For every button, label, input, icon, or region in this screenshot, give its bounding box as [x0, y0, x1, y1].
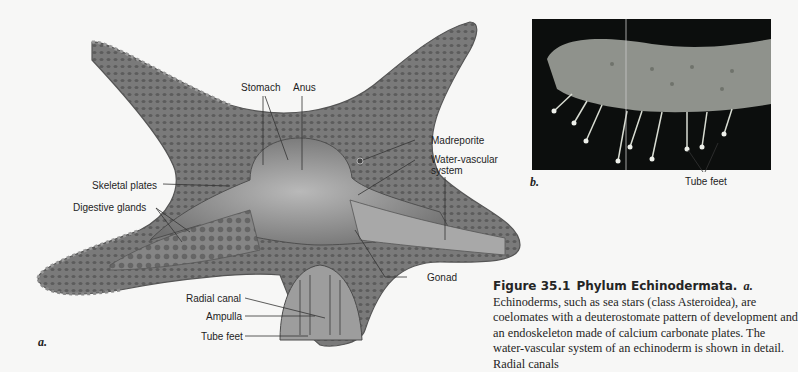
- panel-letter-a: a.: [38, 335, 47, 350]
- caption-figure-number: Figure 35.1: [493, 279, 570, 293]
- caption-text: Echinoderms, such as sea stars (class As…: [493, 295, 798, 371]
- label-tube-feet-a: Tube feet: [201, 331, 243, 342]
- label-water-vascular: Water-vascular: [431, 154, 498, 165]
- label-gonad: Gonad: [427, 272, 457, 283]
- tube-feet-photo: [532, 19, 771, 170]
- label-madreporite: Madreporite: [431, 135, 484, 146]
- panel-letter-b: b.: [530, 175, 539, 190]
- label-digestive-glands: Digestive glands: [73, 202, 146, 213]
- figure-caption: Figure 35.1 Phylum Echinodermata. a. Ech…: [493, 279, 798, 372]
- label-tube-feet-b: Tube feet: [685, 176, 727, 187]
- madreporite: [357, 158, 363, 164]
- label-anus: Anus: [293, 82, 316, 93]
- caption-panel-ref: a.: [744, 279, 753, 293]
- label-ampulla: Ampulla: [206, 311, 242, 322]
- label-skeletal-plates: Skeletal plates: [92, 180, 157, 191]
- label-radial-canal: Radial canal: [186, 293, 241, 304]
- label-water-vascular-2: system: [431, 165, 463, 176]
- label-stomach: Stomach: [241, 82, 280, 93]
- caption-title: Phylum Echinodermata.: [576, 279, 737, 293]
